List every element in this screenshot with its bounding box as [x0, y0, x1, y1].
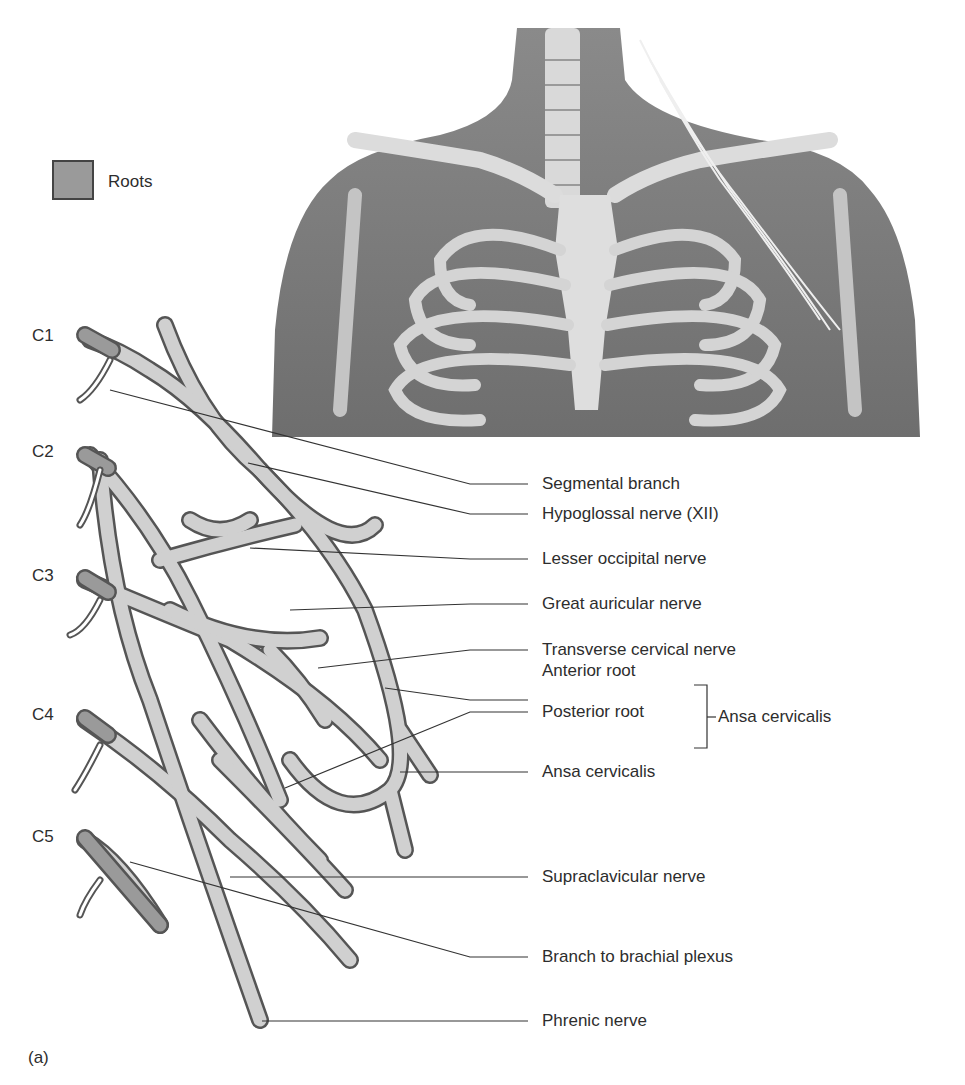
label-supraclavicular-nerve: Supraclavicular nerve: [542, 867, 705, 887]
root-label-c3: C3: [32, 566, 54, 586]
legend-roots-label: Roots: [108, 172, 152, 192]
root-label-c5: C5: [32, 827, 54, 847]
bracket-label-ansa-cervicalis: Ansa cervicalis: [718, 707, 831, 727]
label-branch-to-brachial-plexus: Branch to brachial plexus: [542, 947, 733, 967]
label-segmental-branch: Segmental branch: [542, 474, 680, 494]
label-ansa-cervicalis: Ansa cervicalis: [542, 762, 655, 782]
panel-label: (a): [28, 1048, 49, 1068]
root-label-c1: C1: [32, 326, 54, 346]
cervical-plexus-schematic: [0, 0, 965, 1085]
root-label-c2: C2: [32, 442, 54, 462]
root-label-c4: C4: [32, 705, 54, 725]
label-phrenic-nerve: Phrenic nerve: [542, 1011, 647, 1031]
label-posterior-root: Posterior root: [542, 702, 644, 722]
legend-roots-swatch: [52, 160, 94, 200]
label-anterior-root: Anterior root: [542, 661, 636, 681]
label-lesser-occipital-nerve: Lesser occipital nerve: [542, 549, 706, 569]
label-hypoglossal-nerve: Hypoglossal nerve (XII): [542, 504, 719, 524]
label-great-auricular-nerve: Great auricular nerve: [542, 594, 702, 614]
label-transverse-cervical-nerve: Transverse cervical nerve: [542, 640, 736, 660]
